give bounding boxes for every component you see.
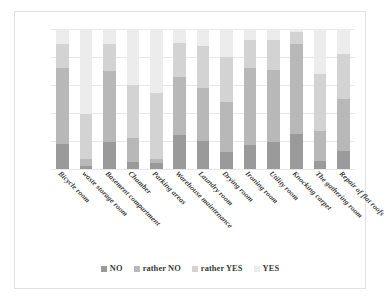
bar-segment-rather-yes[interactable] [267, 40, 280, 69]
bar-segment-no[interactable] [267, 142, 280, 169]
bar-segment-rather-yes[interactable] [337, 54, 350, 99]
bar-segment-rather-yes[interactable] [127, 85, 140, 138]
bar-segment-rather-no[interactable] [103, 71, 116, 142]
stacked-bar[interactable] [267, 29, 280, 169]
bar-segment-no[interactable] [290, 134, 303, 169]
bar-segment-no[interactable] [197, 141, 210, 169]
bar-segment-yes[interactable] [267, 29, 280, 40]
bar-segment-no[interactable] [337, 151, 350, 169]
legend-swatch-icon [254, 266, 260, 272]
bar-segment-rather-yes[interactable] [173, 43, 186, 77]
bar-slot [308, 29, 331, 169]
bar-segment-yes[interactable] [197, 29, 210, 46]
bar-segment-rather-yes[interactable] [56, 44, 69, 68]
bar-segment-yes[interactable] [220, 29, 233, 57]
stacked-bar[interactable] [103, 29, 116, 169]
legend-swatch-icon [101, 266, 107, 272]
legend-item[interactable]: rather YES [192, 264, 243, 273]
bar-slot [74, 29, 97, 169]
bar-segment-rather-no[interactable] [56, 68, 69, 144]
legend-item[interactable]: NO [101, 264, 123, 273]
bar-segment-rather-no[interactable] [244, 68, 257, 145]
stacked-bar[interactable] [80, 29, 93, 169]
legend-label: rather NO [143, 264, 181, 273]
stacked-bar[interactable] [127, 29, 140, 169]
bar-segment-rather-no[interactable] [127, 138, 140, 162]
plot-area [51, 29, 355, 169]
bar-segment-no[interactable] [314, 161, 327, 169]
bar-segment-yes[interactable] [150, 29, 163, 93]
bar-slot [168, 29, 191, 169]
stacked-bar[interactable] [314, 29, 327, 169]
stacked-bar[interactable] [56, 29, 69, 169]
bar-slot [215, 29, 238, 169]
stacked-bar[interactable] [197, 29, 210, 169]
bar-segment-no[interactable] [56, 144, 69, 169]
bar-segment-rather-no[interactable] [314, 131, 327, 160]
bar-segment-rather-no[interactable] [173, 77, 186, 136]
bar-slot [145, 29, 168, 169]
legend-swatch-icon [134, 266, 140, 272]
bar-slot [51, 29, 74, 169]
bar-segment-rather-yes[interactable] [103, 44, 116, 71]
bar-segment-rather-yes[interactable] [197, 46, 210, 88]
bar-segment-rather-no[interactable] [337, 99, 350, 151]
legend-swatch-icon [192, 266, 198, 272]
bar-segment-no[interactable] [244, 145, 257, 169]
bar-slot [238, 29, 261, 169]
legend-item[interactable]: YES [254, 264, 280, 273]
legend-item[interactable]: rather NO [134, 264, 181, 273]
stacked-bar[interactable] [220, 29, 233, 169]
legend-label: YES [263, 264, 280, 273]
bar-segment-no[interactable] [220, 152, 233, 169]
bar-segment-rather-yes[interactable] [290, 32, 303, 45]
bars-container [51, 29, 355, 169]
bar-slot [191, 29, 214, 169]
bar-slot [121, 29, 144, 169]
stacked-bar[interactable] [150, 29, 163, 169]
bar-segment-rather-yes[interactable] [80, 114, 93, 159]
chart-frame: Bicycle roomwaste storage roomBasement c… [14, 11, 366, 289]
bar-slot [332, 29, 355, 169]
bar-slot [98, 29, 121, 169]
bar-segment-rather-no[interactable] [290, 44, 303, 134]
legend-label: rather YES [201, 264, 243, 273]
bar-segment-yes[interactable] [337, 29, 350, 54]
bar-segment-rather-yes[interactable] [220, 57, 233, 102]
bar-segment-yes[interactable] [103, 29, 116, 44]
bar-segment-yes[interactable] [314, 29, 327, 74]
bar-segment-yes[interactable] [173, 29, 186, 43]
bar-segment-no[interactable] [173, 135, 186, 169]
bar-segment-yes[interactable] [127, 29, 140, 85]
stacked-bar[interactable] [244, 29, 257, 169]
stacked-bar[interactable] [337, 29, 350, 169]
x-axis-labels: Bicycle roomwaste storage roomBasement c… [51, 169, 355, 261]
stacked-bar[interactable] [290, 29, 303, 169]
bar-segment-rather-no[interactable] [197, 88, 210, 141]
bar-segment-yes[interactable] [244, 29, 257, 40]
bar-segment-rather-no[interactable] [80, 159, 93, 166]
chart-legend: NOrather NOrather YESYES [15, 264, 365, 273]
bar-segment-yes[interactable] [80, 29, 93, 114]
bar-segment-rather-yes[interactable] [314, 74, 327, 131]
bar-segment-rather-yes[interactable] [150, 93, 163, 159]
bar-segment-no[interactable] [103, 142, 116, 169]
bar-slot [262, 29, 285, 169]
legend-label: NO [110, 264, 123, 273]
bar-slot [285, 29, 308, 169]
bar-segment-yes[interactable] [56, 29, 69, 44]
bar-segment-rather-yes[interactable] [244, 40, 257, 68]
bar-segment-rather-no[interactable] [267, 70, 280, 143]
bar-segment-rather-no[interactable] [220, 102, 233, 152]
stacked-bar[interactable] [173, 29, 186, 169]
